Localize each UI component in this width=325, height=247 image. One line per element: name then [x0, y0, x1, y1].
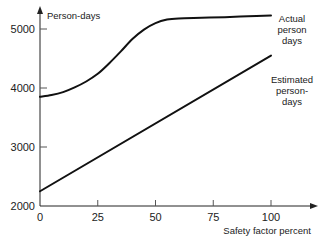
series-label-estimated: Estimatedperson-days: [271, 74, 313, 107]
x-tick-label: 25: [92, 211, 104, 223]
x-tick-label: 50: [149, 211, 161, 223]
series-label-line: Estimated: [271, 74, 313, 85]
y-tick-label: 2000: [11, 200, 35, 212]
y-axis-title: Person-days: [47, 10, 101, 21]
series-line-estimated: [40, 56, 271, 192]
x-axis-title: Safety factor percent: [223, 225, 311, 236]
series-label-line: person: [277, 24, 306, 35]
y-tick-label: 4000: [11, 82, 35, 94]
series-label-line: days: [282, 35, 302, 46]
x-tick-label: 75: [207, 211, 219, 223]
x-tick-label: 0: [37, 211, 43, 223]
chart: 02550751002000300040005000 Person-daysSa…: [0, 0, 325, 247]
series-label-line: days: [282, 96, 302, 107]
series-label-actual: Actualpersondays: [277, 13, 306, 46]
labels: Person-daysSafety factor percentActualpe…: [47, 10, 313, 236]
axes: [40, 10, 314, 206]
x-tick-label: 100: [262, 211, 280, 223]
series-line-actual: [40, 15, 271, 96]
series-label-line: Actual: [279, 13, 305, 24]
y-tick-label: 5000: [11, 23, 35, 35]
series-group: [40, 15, 271, 191]
ticks: 02550751002000300040005000: [11, 23, 281, 223]
y-tick-label: 3000: [11, 141, 35, 153]
series-label-line: person-: [276, 85, 308, 96]
